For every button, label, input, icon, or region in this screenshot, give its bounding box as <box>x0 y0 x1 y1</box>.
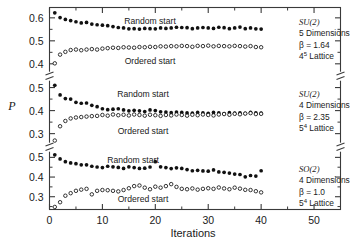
annotation-group: SU(2) <box>299 17 320 27</box>
x-tick-label: 20 <box>149 214 161 226</box>
data-point-open <box>254 45 258 49</box>
data-point-open <box>117 46 121 50</box>
data-point-open <box>180 44 184 48</box>
data-point-filled <box>159 110 163 114</box>
annotation-lattice: 45 Lattice <box>299 51 334 61</box>
data-point-filled <box>127 165 131 169</box>
panel-middle: 0.30.40.5SU(2)4 Dimensionsβ = 2.3554 Lat… <box>29 82 350 143</box>
data-point-filled <box>106 24 110 28</box>
data-point-filled <box>222 170 226 174</box>
data-point-open <box>249 44 253 48</box>
x-tick-label: 30 <box>202 214 214 226</box>
data-point-open <box>244 188 248 192</box>
panel-top: 0.40.50.6SU(2)5 Dimensionsβ = 1.6445 Lat… <box>29 11 350 70</box>
annotation-beta: β = 1.64 <box>299 40 330 50</box>
data-point-open <box>238 113 242 117</box>
data-point-filled <box>206 26 210 30</box>
data-point-open <box>79 48 83 52</box>
series-label-ordered: Ordered start <box>118 126 169 136</box>
data-point-filled <box>58 157 62 161</box>
panel-bottom: 0.30.40.5SO(2)4 Dimensionsβ = 1.054 Latt… <box>29 151 350 208</box>
data-point-filled <box>206 169 210 173</box>
data-point-open <box>249 188 253 192</box>
data-point-open <box>132 46 136 50</box>
data-point-open <box>212 45 216 49</box>
data-point-filled <box>191 27 195 31</box>
data-point-filled <box>138 27 142 31</box>
data-point-filled <box>58 16 62 20</box>
data-point-open <box>69 191 73 195</box>
data-point-open <box>127 187 131 191</box>
annotation-beta: β = 2.35 <box>299 112 330 122</box>
data-point-open <box>191 113 195 117</box>
series-label-random: Random start <box>107 155 159 165</box>
data-point-open <box>106 46 110 50</box>
x-tick-label: 10 <box>97 214 109 226</box>
data-point-open <box>127 114 131 118</box>
data-point-filled <box>222 26 226 30</box>
data-point-filled <box>132 109 136 113</box>
data-point-filled <box>116 26 120 30</box>
data-point-open <box>233 44 237 48</box>
x-tick-label: 40 <box>255 214 267 226</box>
data-point-open <box>106 188 110 192</box>
data-point-filled <box>111 25 115 29</box>
axis-break-mark <box>337 143 345 152</box>
data-point-open <box>217 186 221 190</box>
data-point-open <box>228 187 232 191</box>
data-point-open <box>69 48 73 52</box>
data-point-open <box>90 114 94 118</box>
data-point-open <box>58 125 62 129</box>
data-point-open <box>259 112 263 116</box>
data-point-filled <box>228 171 232 175</box>
data-point-filled <box>238 25 242 29</box>
series-label-ordered: Ordered start <box>118 194 169 204</box>
annotation-lattice: 54 Lattice <box>299 198 334 208</box>
data-point-open <box>58 200 62 204</box>
data-point-filled <box>85 21 89 25</box>
data-point-filled <box>85 163 89 167</box>
data-point-open <box>217 44 221 48</box>
data-point-open <box>143 186 147 190</box>
data-point-filled <box>148 108 152 112</box>
data-point-filled <box>74 162 78 166</box>
data-point-filled <box>95 165 99 169</box>
annotation-beta: β = 1.0 <box>299 187 325 197</box>
annotation-group: SU(2) <box>299 89 320 99</box>
data-point-open <box>159 114 163 118</box>
data-point-filled <box>74 100 78 104</box>
data-point-open <box>101 188 105 192</box>
data-point-open <box>106 114 110 118</box>
data-point-open <box>53 62 57 65</box>
axis-break-mark <box>337 72 345 81</box>
data-point-filled <box>148 165 152 169</box>
data-point-open <box>138 184 142 188</box>
data-point-filled <box>249 26 253 30</box>
data-point-open <box>138 45 142 49</box>
data-point-filled <box>53 83 57 87</box>
data-point-open <box>222 112 226 116</box>
data-point-filled <box>101 23 105 27</box>
data-point-filled <box>180 26 184 30</box>
data-point-open <box>185 114 189 118</box>
data-point-open <box>233 112 237 116</box>
data-point-open <box>138 113 142 117</box>
data-point-open <box>122 113 126 117</box>
data-point-open <box>85 187 89 191</box>
data-point-filled <box>79 21 83 25</box>
data-point-open <box>95 114 99 118</box>
data-point-open <box>143 46 147 50</box>
data-point-open <box>127 46 131 50</box>
data-point-open <box>90 47 94 51</box>
data-point-filled <box>217 25 221 29</box>
data-point-filled <box>175 166 179 170</box>
data-point-open <box>154 45 158 49</box>
data-point-open <box>169 44 173 48</box>
data-point-filled <box>74 20 78 24</box>
data-point-open <box>212 187 216 191</box>
data-point-open <box>53 205 57 209</box>
data-point-filled <box>64 160 68 164</box>
data-point-filled <box>254 27 258 31</box>
y-tick-label: 0.5 <box>29 35 44 47</box>
data-point-open <box>259 191 263 195</box>
